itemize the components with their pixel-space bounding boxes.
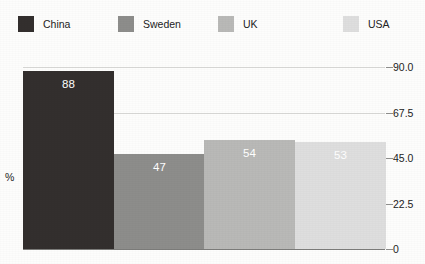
y-axis-tick-label: 22.5 <box>393 198 413 210</box>
y-axis-tick-mark <box>386 67 393 68</box>
legend-swatch-icon <box>343 16 359 32</box>
legend-swatch-icon <box>218 16 234 32</box>
legend-item-sweden[interactable]: Sweden <box>118 15 181 33</box>
legend-swatch-icon <box>118 16 134 32</box>
bar-china[interactable]: 88 <box>23 71 114 249</box>
y-axis-tick-label: 90.0 <box>393 61 413 73</box>
legend-swatch-icon <box>18 16 34 32</box>
y-axis-tick-mark <box>386 158 393 159</box>
bar-value-label: 88 <box>23 78 114 90</box>
y-axis-tick-mark <box>386 113 393 114</box>
bar-value-label: 54 <box>204 147 295 159</box>
legend-item-china[interactable]: China <box>18 15 70 33</box>
y-axis-tick-label: 0 <box>393 243 399 255</box>
bar-value-label: 47 <box>114 161 205 173</box>
bar-usa[interactable]: 53 <box>295 142 386 249</box>
gridline <box>23 67 385 68</box>
gridline <box>23 249 385 250</box>
chart-figure: ChinaSwedenUKUSA 88475453 90.067.545.022… <box>0 0 425 264</box>
plot-area: 88475453 <box>23 67 385 249</box>
legend-item-usa[interactable]: USA <box>343 15 390 33</box>
bar-value-label: 53 <box>295 149 386 161</box>
legend-item-label: USA <box>368 16 390 32</box>
y-axis-tick-mark <box>386 204 393 205</box>
legend-item-label: Sweden <box>143 16 181 32</box>
chart-legend: ChinaSwedenUKUSA <box>0 0 425 46</box>
legend-item-label: UK <box>243 16 258 32</box>
y-axis-tick-mark <box>386 249 393 250</box>
legend-item-label: China <box>43 16 70 32</box>
y-axis-tick-label: 67.5 <box>393 107 413 119</box>
bar-sweden[interactable]: 47 <box>114 154 205 249</box>
bar-uk[interactable]: 54 <box>204 140 295 249</box>
legend-item-uk[interactable]: UK <box>218 15 258 33</box>
y-axis-tick-label: 45.0 <box>393 152 413 164</box>
y-axis-label: % <box>5 171 14 183</box>
